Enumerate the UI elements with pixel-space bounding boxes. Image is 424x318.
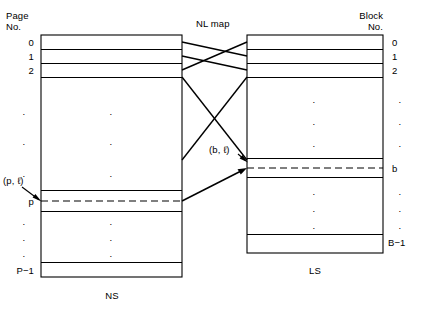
right-row-label-last: B−1 bbox=[388, 237, 405, 248]
right-inner-dot-l1: · bbox=[306, 188, 322, 199]
left-inner-dot-u3: · bbox=[103, 170, 119, 181]
right-outer-dot-l2: · bbox=[392, 205, 408, 216]
left-structure-caption: NS bbox=[92, 290, 132, 301]
left-outer-dot-u1: · bbox=[16, 108, 32, 119]
left-row-label-0: 0 bbox=[14, 37, 34, 48]
map-line-2-to-0 bbox=[182, 42, 247, 70]
left-inner-dot-l3: · bbox=[103, 250, 119, 261]
right-inner-dot-u1: · bbox=[306, 96, 322, 107]
p-to-b-arrowhead bbox=[238, 168, 248, 175]
diagram-canvas bbox=[0, 0, 424, 318]
right-structure-caption: LS bbox=[295, 265, 335, 276]
b-pair-label: (b, ℓ) bbox=[209, 144, 230, 155]
left-row-label-1: 1 bbox=[14, 51, 34, 62]
left-outer-dot-l2: · bbox=[16, 234, 32, 245]
left-outer-dot-u2: · bbox=[16, 138, 32, 149]
p-to-b-arrow bbox=[182, 168, 247, 201]
right-outer-dot-u1: · bbox=[392, 96, 408, 107]
left-inner-dot-u2: · bbox=[103, 138, 119, 149]
right-row-label-2: 2 bbox=[392, 65, 397, 76]
left-outer-dot-l3: · bbox=[16, 250, 32, 261]
map-line-1-to-2 bbox=[182, 56, 247, 70]
block-no-header: Block No. bbox=[345, 10, 383, 32]
left-inner-dot-l1: · bbox=[103, 218, 119, 229]
right-outer-dot-u2: · bbox=[392, 118, 408, 129]
nl-map-diagram: Page No. Block No. NL map 0 1 2 p P−1 · … bbox=[0, 0, 424, 318]
map-line-0-to-1 bbox=[182, 42, 247, 56]
right-row-label-0: 0 bbox=[392, 37, 397, 48]
right-outer-dot-l3: · bbox=[392, 222, 408, 233]
nl-map-label: NL map bbox=[196, 18, 230, 29]
left-inner-dot-l2: · bbox=[103, 234, 119, 245]
right-row-label-b: b bbox=[392, 163, 397, 174]
left-row-label-last: P−1 bbox=[4, 265, 34, 276]
nl-map-connections bbox=[182, 42, 247, 160]
p-pair-label: (p, ℓ) bbox=[3, 175, 24, 186]
left-row-label-2: 2 bbox=[14, 65, 34, 76]
left-row-label-p: p bbox=[14, 196, 34, 207]
right-inner-dot-l3: · bbox=[306, 222, 322, 233]
right-inner-dot-u2: · bbox=[306, 118, 322, 129]
left-inner-dot-u1: · bbox=[103, 108, 119, 119]
right-inner-dot-u3: · bbox=[306, 140, 322, 151]
page-no-header: Page No. bbox=[6, 10, 29, 32]
left-outer-dot-l1: · bbox=[16, 218, 32, 229]
right-row-label-1: 1 bbox=[392, 51, 397, 62]
right-inner-dot-l2: · bbox=[306, 205, 322, 216]
right-outer-dot-l1: · bbox=[392, 188, 408, 199]
right-outer-dot-u3: · bbox=[392, 140, 408, 151]
